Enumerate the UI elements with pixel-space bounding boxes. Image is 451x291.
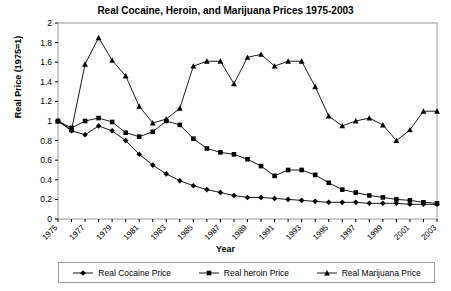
data-point-square [286,168,291,173]
legend-item[interactable]: Real heroin Price [198,268,289,278]
y-axis-tick-label: 1 [47,116,52,126]
x-axis-label: Year [0,244,451,254]
legend-marker-diamond-icon [72,268,94,278]
data-point-square [245,157,250,162]
data-point-square [367,193,372,198]
y-axis-tick-label: 1.8 [40,38,52,48]
data-point-square [123,130,128,135]
data-point-square [272,174,277,179]
data-point-square [178,123,183,128]
data-point-square [218,150,223,155]
y-axis-tick-label: 2 [47,18,52,28]
chart-container: Real Cocaine, Heroin, and Marijuana Pric… [0,0,451,291]
data-point-square [394,197,399,202]
x-axis-tick-label: 1999 [365,223,384,242]
x-axis-tick-label: 1981 [122,223,141,242]
y-axis-tick-label: 0 [47,214,52,224]
y-axis-tick-label: 1.4 [40,77,52,87]
chart-legend: Real Cocaine PriceReal heroin PriceReal … [58,262,435,283]
legend-item[interactable]: Real Marijuana Price [316,268,421,278]
data-point-square [207,270,212,275]
data-point-diamond [81,270,87,276]
data-point-square [96,116,101,121]
x-axis-tick-label: 1997 [338,223,357,242]
x-axis-tick-label: 1995 [311,223,330,242]
y-axis-tick-label: 0.6 [40,155,52,165]
data-point-square [435,201,440,206]
y-axis-tick-label: 0.4 [40,175,52,185]
plot-area: 00.20.40.60.811.21.41.61.821975197719791… [0,0,451,245]
legend-marker-square-icon [198,268,220,278]
data-point-square [313,173,318,178]
data-point-square [259,164,264,169]
data-point-square [408,198,413,203]
y-axis-tick-label: 1.6 [40,57,52,67]
data-point-square [83,119,88,124]
x-axis-tick-label: 1985 [176,223,195,242]
data-point-square [299,168,304,173]
y-axis-tick-label: 1.2 [40,96,52,106]
legend-marker-triangle-icon [316,268,338,278]
data-point-square [340,187,345,192]
data-point-square [205,146,210,151]
legend-label: Real Cocaine Price [98,268,171,278]
x-axis-tick-label: 1993 [284,223,303,242]
data-point-square [232,152,237,157]
legend-label: Real heroin Price [224,268,289,278]
data-point-square [326,180,331,185]
data-point-square [191,136,196,141]
x-axis-tick-label: 2003 [419,223,438,242]
legend-item[interactable]: Real Cocaine Price [72,268,171,278]
x-axis-tick-label: 1987 [203,223,222,242]
data-point-square [421,200,426,205]
data-point-square [137,134,142,139]
x-axis-tick-label: 1975 [40,223,59,242]
x-axis-tick-label: 1991 [257,223,276,242]
x-axis-tick-label: 1977 [68,223,87,242]
y-axis-tick-label: 0.2 [40,194,52,204]
plot-frame [58,23,437,219]
data-point-square [150,129,155,134]
x-axis-tick-label: 1983 [149,223,168,242]
legend-label: Real Marijuana Price [342,268,421,278]
data-point-square [110,120,115,125]
x-axis-tick-label: 1989 [230,223,249,242]
data-point-square [353,190,358,195]
x-axis-tick-label: 2001 [392,223,411,242]
x-axis-tick-label: 1979 [95,223,114,242]
y-axis-tick-label: 0.8 [40,136,52,146]
data-point-square [381,195,386,200]
